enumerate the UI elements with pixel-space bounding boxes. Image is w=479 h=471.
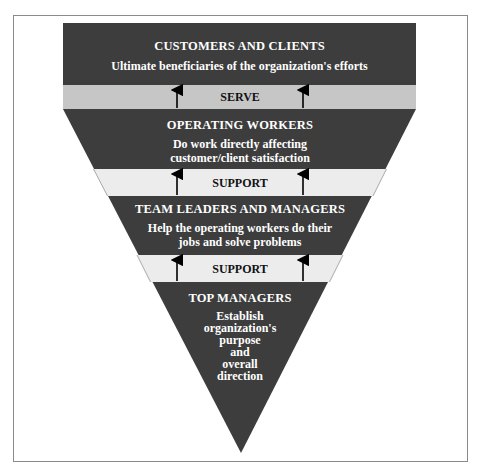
support-label-1: SUPPORT (190, 176, 290, 191)
support-label-2: SUPPORT (190, 262, 290, 277)
customers-description: Ultimate beneficiaries of the organizati… (63, 59, 416, 73)
customers-title: CUSTOMERS AND CLIENTS (63, 39, 416, 54)
top-managers-description: Establish organization's purpose and ove… (165, 310, 315, 382)
serve-label: SERVE (190, 90, 290, 105)
customers-box (63, 23, 416, 85)
operating-workers-title: OPERATING WORKERS (90, 118, 390, 133)
team-leaders-description: Help the operating workers do their jobs… (110, 221, 370, 250)
top-managers-title: TOP MANAGERS (165, 291, 315, 306)
operating-workers-description: Do work directly affecting customer/clie… (90, 137, 390, 166)
team-leaders-title: TEAM LEADERS AND MANAGERS (110, 202, 370, 217)
